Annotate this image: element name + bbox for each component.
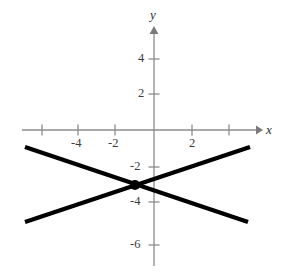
- x-tick-label-minus2: -2: [108, 137, 118, 150]
- y-axis-label: y: [150, 8, 156, 21]
- x-tick-label-minus4: -4: [71, 137, 81, 150]
- y-tick-label-minus2: -2: [130, 160, 140, 173]
- y-tick-label-4: 4: [138, 52, 144, 65]
- intersection-point-marker: [130, 180, 140, 190]
- y-axis-arrowhead: [150, 26, 159, 34]
- y-tick-label-minus6: -6: [130, 238, 140, 251]
- coordinate-plane: [0, 0, 283, 274]
- x-tick-label-2: 2: [189, 137, 195, 150]
- graph-figure: -4 -2 2 4 2 -2 -4 -6 x y: [0, 0, 283, 274]
- y-tick-label-minus4: -4: [130, 195, 140, 208]
- y-tick-label-2: 2: [138, 87, 144, 100]
- x-axis-label: x: [266, 123, 272, 136]
- x-axis-arrowhead: [256, 126, 263, 135]
